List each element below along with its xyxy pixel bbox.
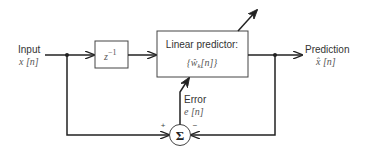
- plus-sign: +: [161, 121, 166, 130]
- minus-sign: −: [193, 121, 198, 130]
- predictor-label: Linear predictor:: [166, 39, 238, 50]
- error-label: Error: [184, 94, 207, 105]
- summer-symbol: Σ: [176, 128, 185, 143]
- adaptation-arrow: [238, 10, 257, 31]
- input-signal-label: x [n]: [18, 56, 39, 67]
- prediction-signal-label: x̂ [n]: [315, 56, 336, 67]
- prediction-label: Prediction: [305, 44, 349, 55]
- linear-predictor-block: [157, 31, 248, 77]
- error-signal-label: e [n]: [184, 106, 204, 117]
- input-label: Input: [18, 44, 40, 55]
- delay-exponent: −1: [108, 48, 117, 57]
- block-diagram: Σ + − Input x [n] z−1 Linear predictor: …: [0, 0, 367, 155]
